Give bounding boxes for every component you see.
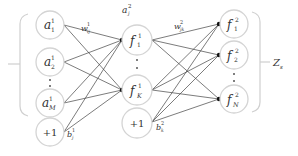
hidden-output-edges: [152, 22, 221, 122]
input-node-a2: a 1 2: [36, 48, 64, 76]
svg-text:j: j: [71, 135, 74, 140]
svg-text:2: 2: [180, 19, 183, 25]
output-node-f1: f 2 1: [220, 10, 248, 38]
svg-text:1: 1: [87, 21, 90, 27]
hidden-node-f1: f 1 1: [122, 25, 152, 55]
output-node-fN: f 2 N: [220, 85, 248, 113]
output-group-bracket: [252, 12, 270, 112]
input-bias-node: +1: [36, 118, 64, 146]
svg-text:+1: +1: [43, 127, 58, 138]
svg-text:2: 2: [128, 3, 132, 9]
svg-text:1: 1: [234, 25, 238, 32]
svg-text:2: 2: [234, 56, 238, 63]
ellipsis-dot: [49, 85, 51, 87]
svg-text:2: 2: [235, 16, 239, 23]
svg-text:N: N: [232, 101, 239, 109]
svg-text:a: a: [122, 5, 127, 15]
weight-label-w1: w 1 ij: [81, 21, 90, 34]
svg-text:1: 1: [49, 95, 53, 102]
input-hidden-edges: [64, 25, 124, 132]
svg-text:1: 1: [138, 32, 142, 39]
output-layer: f 2 1 f 2 2 f 2 N Z s: [220, 10, 283, 113]
hidden-bias-node: +1: [122, 108, 152, 138]
ellipsis-dot: [136, 59, 138, 61]
ellipsis-dot: [49, 79, 51, 81]
svg-text:1: 1: [51, 17, 55, 24]
svg-text:k: k: [161, 128, 164, 133]
input-group-bracket: [8, 14, 28, 116]
input-node-aM: a 1 M: [36, 89, 64, 117]
svg-text:j: j: [127, 10, 130, 17]
svg-text:2: 2: [161, 120, 164, 126]
svg-text:2: 2: [51, 63, 55, 70]
hidden-layer-header-label: a 2 j: [122, 3, 132, 17]
ellipsis-dot: [233, 73, 235, 75]
ellipsis-dot: [233, 80, 235, 82]
hidden-node-fK: f 1 K: [122, 75, 152, 105]
svg-text:1: 1: [51, 54, 55, 61]
output-group-label-zs: Z s: [272, 57, 283, 70]
bias-label-b2: b 2 k: [156, 120, 164, 133]
svg-text:1: 1: [137, 41, 141, 48]
hidden-layer: a 2 j f 1 1 f 1 K +1 w 2 jk b 2: [122, 3, 184, 138]
output-node-f2: f 2 2: [220, 41, 248, 69]
input-layer: a 1 1 a 1 2 a 1 M +1 w 1 ij b 1: [36, 11, 90, 146]
weight-label-w2: w 2 jk: [174, 19, 184, 32]
ellipsis-dot: [136, 67, 138, 69]
input-node-a1: a 1 1: [36, 11, 64, 39]
svg-text:+1: +1: [130, 118, 145, 129]
neural-network-diagram: a 1 1 a 1 2 a 1 M +1 w 1 ij b 1: [0, 0, 298, 156]
svg-text:2: 2: [235, 91, 239, 98]
svg-text:1: 1: [51, 26, 55, 33]
svg-text:1: 1: [138, 82, 142, 89]
svg-text:1: 1: [72, 127, 75, 133]
svg-text:2: 2: [235, 47, 239, 54]
svg-text:M: M: [48, 104, 56, 112]
svg-text:s: s: [280, 64, 283, 70]
svg-text:jk: jk: [179, 27, 184, 32]
